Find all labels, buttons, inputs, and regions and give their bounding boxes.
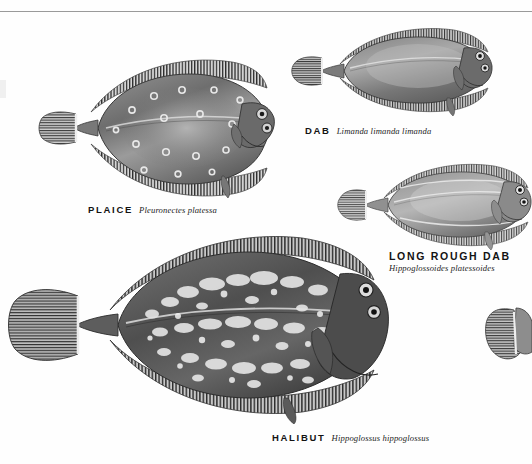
halibut-illustration	[2, 228, 392, 424]
long-rough-dab-scientific-name: Hippoglossoides platessoides	[389, 263, 511, 273]
dab-label: DABLimanda limanda limanda	[305, 120, 431, 139]
header-rule	[0, 11, 532, 12]
dab-scientific-name: Limanda limanda limanda	[337, 126, 432, 136]
long-rough-dab-common-name: LONG ROUGH DAB	[389, 250, 511, 262]
halibut-scientific-name: Hippoglossus hippoglossus	[332, 433, 430, 443]
plaice-illustration	[36, 52, 276, 204]
page-edge-mark	[0, 80, 6, 98]
plaice-scientific-name: Pleuronectes platessa	[139, 205, 217, 215]
plaice-label: PLAICEPleuronectes platessa	[88, 199, 217, 218]
partial-specimen-illustration	[484, 296, 532, 368]
halibut-common-name: HALIBUT	[272, 432, 326, 443]
dab-common-name: DAB	[305, 125, 331, 136]
long-rough-dab-label: LONG ROUGH DAB Hippoglossoides platessoi…	[389, 250, 511, 274]
dab-illustration	[288, 22, 496, 118]
halibut-label: HALIBUTHippoglossus hippoglossus	[272, 427, 429, 446]
illustration-plate: PLAICEPleuronectes platessa	[0, 0, 532, 464]
plaice-common-name: PLAICE	[88, 204, 133, 215]
